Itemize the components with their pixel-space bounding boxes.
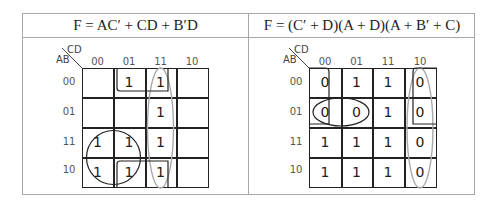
right-col-label: 10	[404, 56, 436, 67]
kmap-cell: 1	[372, 74, 404, 90]
grid-line	[82, 157, 209, 159]
kmap-cell: 1	[145, 164, 176, 180]
kmap-cell: 1	[113, 134, 145, 150]
left-row-label: 00	[60, 76, 78, 87]
grid-line	[82, 127, 209, 129]
kmap-cell: 1	[82, 164, 113, 180]
left-col-label: 00	[82, 56, 113, 67]
kmap-cell: 0	[404, 74, 436, 90]
kmap-cell: 0	[309, 104, 341, 120]
left-expression-title: F = AC′ + CD + B′D	[23, 14, 248, 37]
kmap-cell: 1	[341, 74, 372, 90]
grid-line	[309, 157, 437, 159]
left-col-label: 01	[113, 56, 145, 67]
kmap-cell: 0	[341, 104, 372, 120]
kmap-cell: 0	[404, 104, 436, 120]
kmap-cell: 1	[309, 134, 341, 150]
kmap-cell: 0	[404, 164, 436, 180]
kmap-cell: 1	[145, 134, 176, 150]
kmap-cell: 1	[341, 134, 372, 150]
right-col-label: 00	[309, 56, 341, 67]
left-row-label: 01	[60, 106, 78, 117]
left-row-label: 10	[60, 164, 78, 175]
right-row-label: 11	[287, 136, 305, 147]
kmap-cell: 1	[372, 164, 404, 180]
right-row-label: 10	[287, 164, 305, 175]
grid-line	[309, 97, 437, 99]
kmap-cell: 1	[113, 74, 145, 90]
kmap-cell: 1	[113, 164, 145, 180]
kmap-cell: 1	[82, 134, 113, 150]
left-row-variable: AB	[56, 54, 70, 65]
kmap-cell: 1	[341, 164, 372, 180]
left-col-label: 11	[145, 56, 176, 67]
kmap-cell: 1	[145, 74, 176, 90]
column-divider	[248, 13, 249, 195]
right-row-label: 01	[287, 106, 305, 117]
grid-line	[82, 97, 209, 99]
kmap-cell: 0	[404, 134, 436, 150]
left-row-label: 11	[60, 136, 78, 147]
kmap-cell: 1	[372, 134, 404, 150]
kmap-cell: 1	[372, 104, 404, 120]
kmap-cell: 1	[309, 164, 341, 180]
right-row-variable: AB	[283, 54, 297, 65]
right-expression-title: F = (C′ + D)(A + D)(A + B′ + C)	[249, 14, 475, 37]
grid-line	[309, 127, 437, 129]
kmap-cell: 0	[309, 74, 341, 90]
kmap-cell: 1	[145, 104, 176, 120]
right-col-label: 01	[341, 56, 372, 67]
left-col-label: 10	[176, 56, 208, 67]
right-row-label: 00	[287, 76, 305, 87]
right-col-label: 11	[372, 56, 404, 67]
